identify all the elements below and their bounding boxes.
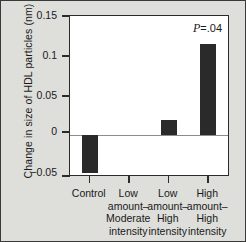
y-tick-label-0.15: 0.15 xyxy=(0,10,57,21)
bar-low-amount-high-intensity xyxy=(161,120,177,135)
x-label-line: High xyxy=(176,187,238,200)
bar-control xyxy=(82,135,98,173)
x-label-line: High xyxy=(176,212,238,225)
x-tick-mark-control xyxy=(89,176,91,183)
x-tick-mark-low-moderate xyxy=(128,176,130,183)
p-value-text: =.04 xyxy=(200,22,222,34)
x-tick-mark-high-high xyxy=(207,176,209,183)
bar-high-amount-high-intensity xyxy=(200,44,216,135)
x-label-line: intensity xyxy=(176,225,238,238)
x-label-line: amount– xyxy=(176,200,238,213)
figure-panel: Change in size of HDL particles (nm) 0.1… xyxy=(0,0,246,242)
y-tick-label-0: 0 xyxy=(0,126,57,137)
x-tick-mark-low-high xyxy=(168,176,170,183)
x-category-label-high-high: High amount– High intensity xyxy=(176,187,238,237)
y-tick-label-0.05: 0.05 xyxy=(0,90,57,101)
y-tick-label--0.05: −0.05 xyxy=(0,167,57,178)
plot-area xyxy=(69,15,229,176)
y-tick-label-0.1: 0.1 xyxy=(0,50,57,61)
p-value-annotation: P=.04 xyxy=(193,21,222,36)
